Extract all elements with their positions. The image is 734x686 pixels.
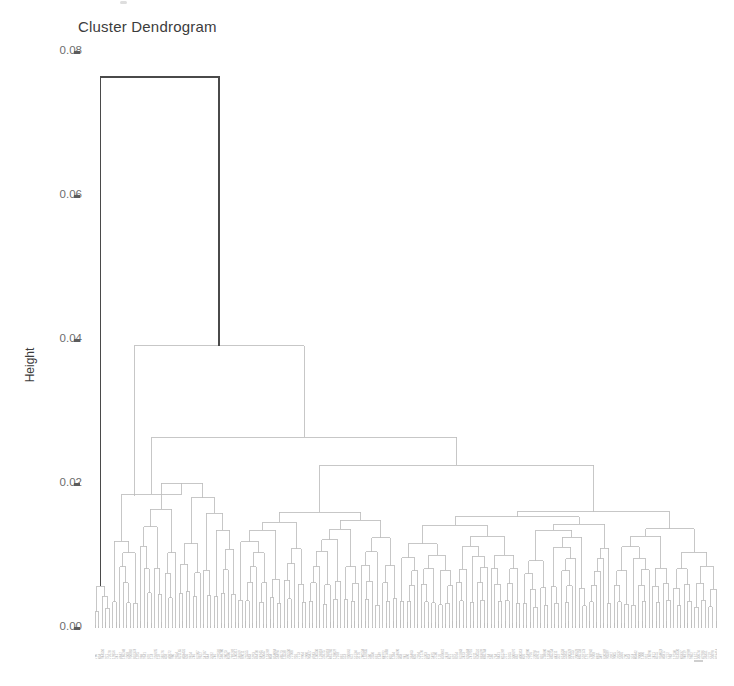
corner-artifact-mark [694, 660, 703, 662]
dendrogram-branches [95, 346, 716, 628]
dendrogram-plot [0, 0, 734, 686]
dendrogram-root-branch [101, 77, 219, 586]
dendrogram-figure: Cluster Dendrogram Height 0.080.060.040.… [0, 0, 734, 686]
